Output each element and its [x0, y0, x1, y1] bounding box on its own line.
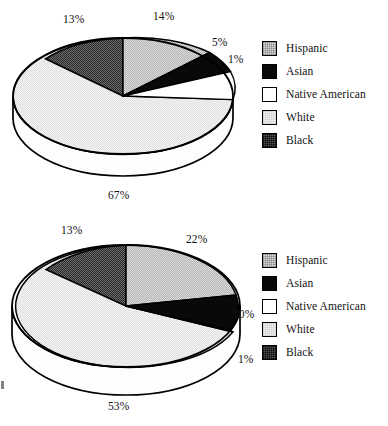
pie-chart-top: 13% 14% 5% 1% 67% Hispanic Asian Native … — [0, 0, 388, 213]
pct-label-white-bottom: 53% — [108, 401, 129, 413]
legend-item-white-bottom: White — [262, 318, 388, 341]
pie-svg-bottom — [0, 213, 252, 426]
legend-label-hispanic: Hispanic — [286, 43, 328, 55]
legend-swatch-white-icon — [262, 110, 277, 125]
legend-swatch-hispanic-icon — [262, 41, 277, 56]
legend-swatch-asian-icon — [262, 276, 277, 291]
legend-swatch-asian-icon — [262, 64, 277, 79]
legend-bottom: Hispanic Asian Native American White Bla… — [262, 249, 388, 364]
legend-label-native: Native American — [286, 301, 366, 313]
pct-label-native-top: 1% — [228, 54, 244, 66]
pie-graphic-bottom — [0, 213, 252, 426]
pct-label-native-bottom: 1% — [238, 354, 254, 366]
legend-item-hispanic-top: Hispanic — [262, 37, 388, 60]
legend-swatch-black-icon — [262, 133, 277, 148]
legend-item-native-bottom: Native American — [262, 295, 388, 318]
scan-edge-artifact — [1, 381, 4, 389]
legend-item-black-bottom: Black — [262, 341, 388, 364]
legend-label-asian: Asian — [286, 278, 313, 290]
pct-label-asian-bottom: 10% — [233, 309, 254, 321]
legend-item-black-top: Black — [262, 129, 388, 152]
legend-swatch-hispanic-icon — [262, 253, 277, 268]
legend-swatch-native-icon — [262, 299, 277, 314]
legend-label-hispanic: Hispanic — [286, 255, 328, 267]
legend-label-white: White — [286, 324, 315, 336]
legend-item-hispanic-bottom: Hispanic — [262, 249, 388, 272]
pie-chart-bottom: 13% 22% 10% 1% 53% Hispanic Asian Native… — [0, 213, 388, 426]
pie-svg-top — [0, 0, 252, 213]
legend-label-white: White — [286, 112, 315, 124]
pct-label-asian-top: 5% — [212, 37, 228, 49]
pct-label-black-bottom: 13% — [61, 225, 82, 237]
pie-graphic-top — [0, 0, 252, 213]
pct-label-black-top: 13% — [63, 14, 84, 26]
legend-swatch-black-icon — [262, 345, 277, 360]
legend-swatch-native-icon — [262, 87, 277, 102]
legend-item-asian-top: Asian — [262, 60, 388, 83]
legend-label-asian: Asian — [286, 66, 313, 78]
legend-label-black: Black — [286, 347, 313, 359]
legend-item-native-top: Native American — [262, 83, 388, 106]
legend-item-asian-bottom: Asian — [262, 272, 388, 295]
legend-swatch-white-icon — [262, 322, 277, 337]
legend-label-native: Native American — [286, 89, 366, 101]
legend-label-black: Black — [286, 135, 313, 147]
pct-label-hispanic-top: 14% — [153, 11, 174, 23]
pct-label-white-top: 67% — [108, 190, 129, 202]
pct-label-hispanic-bottom: 22% — [186, 234, 207, 246]
legend-item-white-top: White — [262, 106, 388, 129]
legend-top: Hispanic Asian Native American White Bla… — [262, 37, 388, 152]
